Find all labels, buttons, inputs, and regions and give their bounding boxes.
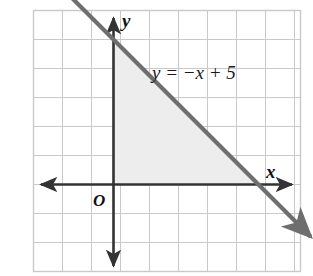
origin-label: O: [93, 191, 105, 210]
graph-figure: y = −x + 5 x y O: [0, 0, 313, 276]
y-axis-label: y: [120, 10, 131, 31]
x-axis-label: x: [265, 161, 276, 182]
coordinate-plane-svg: y = −x + 5 x y O: [0, 0, 313, 276]
equation-label: y = −x + 5: [150, 62, 236, 83]
